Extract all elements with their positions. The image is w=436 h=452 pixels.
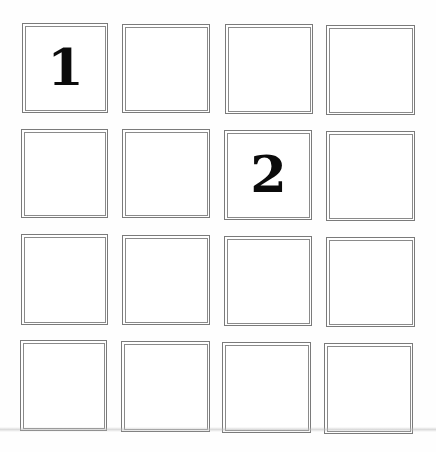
grid-cell-inner: 1 bbox=[25, 26, 106, 111]
grid-cell-r2c3: 2 bbox=[224, 130, 312, 220]
grid-cell-inner bbox=[24, 132, 106, 216]
grid-cell-inner bbox=[329, 134, 413, 219]
scan-artifact-line bbox=[0, 427, 436, 432]
grid-cell-r4c1 bbox=[20, 340, 107, 431]
grid-cell-inner bbox=[227, 239, 310, 324]
grid-cell-inner bbox=[125, 238, 208, 323]
grid-cell-r2c4 bbox=[326, 131, 415, 221]
grid-cell-r2c2 bbox=[122, 129, 210, 218]
cell-number: 2 bbox=[250, 150, 287, 200]
grid-cell-r3c1 bbox=[21, 234, 108, 325]
grid-cell-r4c4 bbox=[324, 343, 413, 434]
box-grid-page: 1 2 bbox=[0, 0, 436, 452]
grid-cell-inner bbox=[125, 132, 208, 216]
grid-cell-inner: 2 bbox=[227, 133, 310, 218]
grid-cell-r2c1 bbox=[21, 129, 108, 218]
grid-cell-r1c1: 1 bbox=[22, 23, 108, 113]
grid-cell-inner bbox=[124, 344, 208, 430]
grid-cell-r4c3 bbox=[222, 342, 311, 433]
grid-cell-inner bbox=[329, 28, 413, 113]
grid-cell-inner bbox=[327, 346, 411, 432]
grid-cell-r3c4 bbox=[326, 237, 415, 327]
grid-cell-inner bbox=[228, 27, 311, 112]
grid-cell-r1c3 bbox=[225, 24, 313, 114]
grid-cell-r4c2 bbox=[121, 341, 210, 432]
grid-cell-r1c4 bbox=[326, 25, 415, 115]
grid-cell-inner bbox=[225, 345, 309, 431]
grid-cell-r1c2 bbox=[122, 24, 210, 113]
grid-cell-inner bbox=[125, 27, 208, 111]
grid-cell-r3c2 bbox=[122, 235, 210, 325]
cell-number: 1 bbox=[47, 43, 84, 93]
grid-cell-inner bbox=[23, 343, 105, 429]
grid-cell-inner bbox=[24, 237, 106, 323]
grid-cell-r3c3 bbox=[224, 236, 312, 326]
grid-cell-inner bbox=[329, 240, 413, 325]
